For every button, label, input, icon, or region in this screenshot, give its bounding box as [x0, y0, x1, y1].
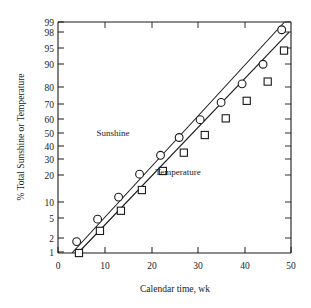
y-tick-label: 98: [45, 28, 55, 38]
data-point: [73, 238, 81, 246]
data-point: [96, 227, 103, 234]
y-tick-label: 99: [45, 18, 55, 28]
x-tick-label: 20: [147, 261, 157, 271]
data-point: [196, 116, 204, 124]
x-tick-label: 30: [193, 261, 203, 271]
data-point: [75, 249, 82, 256]
data-point: [157, 151, 165, 159]
y-tick-labels: 99 98 95 90 80 70 60 50 40 30 20 10 5 2 …: [45, 18, 55, 258]
fit-line-temperature: [78, 32, 289, 253]
series-annotation-temperature: Temperature: [155, 167, 200, 177]
series-annotation-sunshine: Sunshine: [96, 128, 129, 138]
y-tick-label: 70: [45, 100, 55, 110]
y-tick-label: 50: [45, 129, 55, 139]
y-tick-label: 5: [49, 214, 54, 224]
y-tick-label: 95: [45, 44, 55, 54]
x-tick-labels: 0 10 20 30 40 50: [56, 261, 296, 271]
y-tick-label: 90: [45, 60, 55, 70]
data-point: [136, 170, 144, 178]
data-point: [217, 99, 225, 107]
data-series-temperature: [75, 47, 287, 257]
y-tick-label: 40: [45, 142, 55, 152]
data-point: [117, 207, 124, 214]
y-tick-label: 2: [49, 234, 54, 244]
data-point: [201, 131, 208, 138]
chart-svg: 99 98 95 90 80 70 60 50 40 30 20 10 5 2 …: [0, 0, 311, 308]
y-axis-ticks: [58, 22, 64, 252]
x-axis-ticks: [58, 22, 291, 253]
data-point: [238, 80, 246, 88]
x-tick-label: 50: [286, 261, 296, 271]
data-point: [180, 149, 187, 156]
y-axis-title: % Total Sunshine or Temperature: [16, 73, 26, 200]
y-tick-label: 1: [49, 248, 54, 258]
y-tick-label: 30: [45, 155, 55, 165]
x-tick-label: 40: [240, 261, 250, 271]
data-point: [243, 97, 250, 104]
y-tick-label: 10: [45, 198, 55, 208]
x-axis-title: Calendar time, wk: [140, 284, 210, 294]
data-point: [259, 60, 267, 68]
plot-frame: [58, 22, 291, 253]
y-tick-label: 20: [45, 171, 55, 181]
data-point: [280, 47, 287, 54]
x-tick-label: 0: [56, 261, 61, 271]
data-point: [115, 193, 123, 201]
data-point: [94, 215, 102, 223]
x-tick-label: 10: [100, 261, 110, 271]
y-tick-label: 80: [45, 83, 55, 93]
data-point: [264, 78, 271, 85]
probability-plot-figure: 99 98 95 90 80 70 60 50 40 30 20 10 5 2 …: [0, 0, 311, 308]
data-point: [278, 26, 286, 34]
data-point: [138, 186, 145, 193]
data-point: [222, 115, 229, 122]
y-tick-label: 60: [45, 115, 55, 125]
data-point: [175, 134, 183, 142]
